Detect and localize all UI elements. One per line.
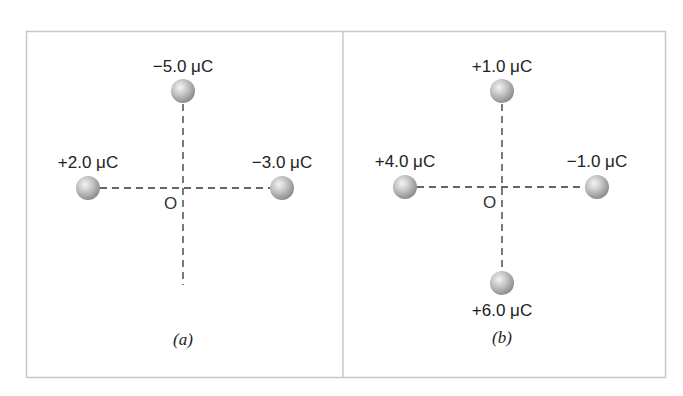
point-charge-figure: O −5.0 μC +2.0 μC −3.0 μC (a) O +1.0 μC … bbox=[0, 0, 683, 396]
charge-label-right: −3.0 μC bbox=[252, 153, 312, 172]
panel-caption: (a) bbox=[173, 330, 193, 349]
charge-top-icon bbox=[490, 79, 514, 103]
charge-left-icon bbox=[393, 175, 417, 199]
charge-label-left: +4.0 μC bbox=[375, 152, 435, 171]
charge-bottom-icon bbox=[490, 271, 514, 295]
charge-label-left: +2.0 μC bbox=[58, 153, 118, 172]
origin-label: O bbox=[483, 193, 496, 212]
charge-right-icon bbox=[585, 175, 609, 199]
charge-label-bottom: +6.0 μC bbox=[472, 301, 532, 320]
charge-label-top: +1.0 μC bbox=[472, 57, 532, 76]
panel-b: O +1.0 μC +4.0 μC −1.0 μC +6.0 μC (b) bbox=[375, 57, 627, 347]
panel-a: O −5.0 μC +2.0 μC −3.0 μC (a) bbox=[58, 57, 312, 349]
charge-label-top: −5.0 μC bbox=[153, 57, 213, 76]
origin-label: O bbox=[164, 194, 177, 213]
charge-label-right: −1.0 μC bbox=[567, 152, 627, 171]
figure-frame bbox=[27, 32, 666, 378]
charge-left-icon bbox=[76, 176, 100, 200]
charge-top-icon bbox=[171, 79, 195, 103]
charge-right-icon bbox=[270, 176, 294, 200]
panel-caption: (b) bbox=[492, 328, 512, 347]
